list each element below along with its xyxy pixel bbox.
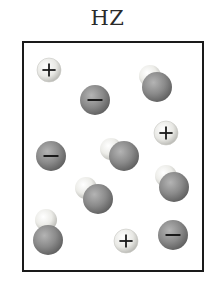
z-atom-icon [83, 184, 113, 214]
hydrogen-cation-icon [154, 121, 178, 145]
hz-molecule-icon [155, 165, 189, 202]
particles-group [33, 58, 189, 255]
hz-molecule-icon [139, 65, 172, 102]
z-anion-icon [158, 220, 188, 250]
particle-scene [0, 0, 215, 281]
z-atom-icon [109, 141, 139, 171]
hz-molecule-icon [75, 177, 113, 214]
z-atom-icon [33, 225, 63, 255]
hz-molecule-icon [100, 138, 139, 171]
z-atom-icon [142, 72, 172, 102]
hydrogen-cation-icon [37, 58, 61, 82]
z-atom-icon [159, 172, 189, 202]
z-anion-icon [36, 141, 66, 171]
z-anion-icon [80, 85, 110, 115]
hz-molecule-icon [33, 209, 63, 255]
hydrogen-cation-icon [114, 229, 138, 253]
